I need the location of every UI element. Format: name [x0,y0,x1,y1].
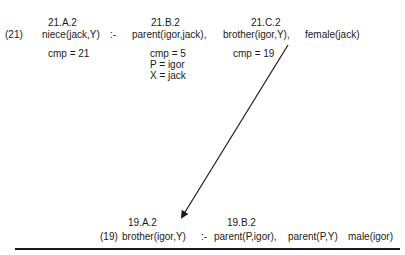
separator-line [15,248,400,250]
resolution-arrow [182,45,288,217]
diagram-overlay [0,0,405,255]
